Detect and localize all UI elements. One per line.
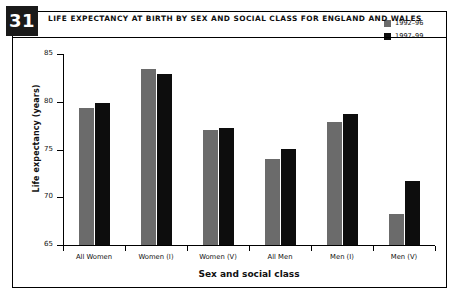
bar: [327, 122, 342, 245]
y-axis-tick: 75: [57, 150, 63, 151]
x-axis-category-label: Women (I): [138, 253, 173, 261]
x-axis-label: Sex and social class: [63, 269, 435, 279]
bar: [157, 74, 172, 245]
plot-area: Life expectancy (years) Sex and social c…: [12, 38, 447, 288]
bar: [343, 114, 358, 245]
y-axis-line: [63, 54, 64, 246]
legend-swatch-icon: [384, 33, 391, 40]
x-axis-tick: [311, 246, 312, 251]
bar: [265, 159, 280, 245]
bar: [95, 103, 110, 245]
y-axis-tick-label: 65: [44, 240, 53, 248]
bar: [219, 128, 234, 245]
bar: [281, 149, 296, 245]
y-axis-tick: 70: [57, 197, 63, 198]
y-axis-tick-label: 85: [44, 49, 53, 57]
figure-title: LIFE EXPECTANCY AT BIRTH BY SEX AND SOCI…: [48, 14, 428, 23]
x-axis-category-label: All Men: [268, 253, 293, 261]
y-axis-tick-label: 70: [44, 192, 53, 200]
bar: [79, 108, 94, 245]
y-axis-label: Life expectancy (years): [32, 69, 41, 209]
x-axis-tick: [249, 246, 250, 251]
x-axis-tick: [435, 246, 436, 251]
x-axis-category-label: Men (I): [330, 253, 354, 261]
figure-page: 31 LIFE EXPECTANCY AT BIRTH BY SEX AND S…: [0, 0, 459, 305]
x-axis-tick: [373, 246, 374, 251]
y-axis-tick-label: 80: [44, 97, 53, 105]
legend-label: 1997–99: [395, 32, 423, 40]
bar: [141, 69, 156, 245]
bar: [389, 214, 404, 245]
bar: [405, 181, 420, 245]
x-axis-tick: [187, 246, 188, 251]
y-axis-tick: 80: [57, 102, 63, 103]
header-divider: [12, 37, 447, 38]
legend-item: 1997–99: [384, 32, 444, 40]
x-axis-category-label: All Women: [76, 253, 112, 261]
figure-number-badge: 31: [6, 6, 38, 36]
y-axis-tick-label: 75: [44, 145, 53, 153]
x-axis-category-label: Men (V): [391, 253, 417, 261]
bar: [203, 130, 218, 245]
y-axis-tick: 85: [57, 54, 63, 55]
x-axis-category-label: Women (V): [199, 253, 237, 261]
x-axis-tick: [63, 246, 64, 251]
x-axis-tick: [125, 246, 126, 251]
